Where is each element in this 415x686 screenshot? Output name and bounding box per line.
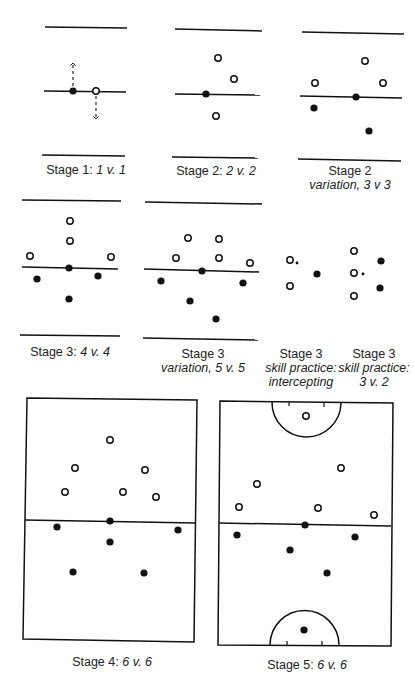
caption-label: Stage 2 bbox=[328, 164, 371, 178]
light-player bbox=[380, 80, 386, 86]
dark-player bbox=[106, 538, 113, 545]
panel-stage3-3v2 bbox=[351, 248, 385, 299]
light-player bbox=[351, 248, 357, 254]
caption-detail: 6 v. 6 bbox=[317, 658, 347, 672]
goalkeeper-dark bbox=[300, 626, 307, 633]
light-player bbox=[173, 255, 179, 261]
dark-player bbox=[351, 533, 358, 540]
caption-stage3-variation: Stage 3 variation, 5 v. 5 bbox=[148, 347, 258, 375]
ball-icon bbox=[296, 262, 299, 265]
light-player bbox=[120, 489, 126, 495]
panel-stage3 bbox=[20, 200, 121, 336]
light-player bbox=[312, 80, 318, 86]
light-player bbox=[108, 254, 114, 260]
caption-label: Stage 3 bbox=[279, 347, 322, 361]
boundary-line bbox=[42, 155, 125, 156]
halfway-line bbox=[300, 96, 402, 98]
light-player bbox=[371, 512, 377, 518]
dark-player bbox=[310, 104, 317, 111]
light-player bbox=[216, 255, 222, 261]
dark-player bbox=[140, 569, 147, 576]
caption-stage2-variation: Stage 2 variation, 3 v 3 bbox=[300, 164, 400, 192]
dark-player bbox=[186, 297, 193, 304]
dark-player bbox=[286, 546, 293, 553]
caption-label: Stage 3 bbox=[352, 347, 395, 361]
dark-player bbox=[53, 523, 60, 530]
dark-player bbox=[69, 568, 76, 575]
caption-label: Stage 4: bbox=[72, 655, 119, 669]
panel-stage2-variation bbox=[298, 32, 404, 161]
panel-stage3-intercepting bbox=[287, 257, 321, 289]
light-player bbox=[254, 481, 260, 487]
light-player bbox=[107, 437, 113, 443]
light-player bbox=[236, 504, 242, 510]
dark-player bbox=[377, 257, 384, 264]
light-player bbox=[338, 465, 344, 471]
light-player bbox=[185, 235, 191, 241]
light-player bbox=[315, 505, 321, 511]
boundary-line bbox=[22, 200, 121, 201]
boundary-line bbox=[145, 202, 262, 204]
dark-player bbox=[212, 315, 219, 322]
dark-player bbox=[301, 521, 308, 528]
boundary-line bbox=[172, 157, 258, 158]
caption-detail: variation, 5 v. 5 bbox=[148, 361, 258, 375]
dark-player bbox=[65, 295, 72, 302]
light-player bbox=[351, 270, 357, 276]
boundary-line bbox=[143, 338, 258, 340]
panel-stage4 bbox=[23, 398, 197, 642]
light-player bbox=[27, 253, 33, 259]
light-player bbox=[216, 236, 222, 242]
light-player bbox=[362, 58, 368, 64]
dark-player bbox=[233, 531, 240, 538]
dark-player bbox=[33, 275, 40, 282]
caption-detail: variation, 3 v 3 bbox=[300, 178, 400, 192]
ball-icon bbox=[362, 273, 365, 276]
caption-detail: 4 v. 4 bbox=[80, 345, 110, 359]
light-player bbox=[247, 260, 253, 266]
boundary-line bbox=[298, 159, 401, 161]
caption-label: Stage 1: bbox=[46, 163, 93, 177]
light-player bbox=[287, 283, 293, 289]
light-player bbox=[351, 293, 357, 299]
caption-label: Stage 3 bbox=[181, 347, 224, 361]
dark-player bbox=[69, 87, 76, 94]
light-player bbox=[153, 494, 159, 500]
light-player bbox=[215, 55, 221, 61]
diagram-canvas bbox=[0, 0, 415, 686]
dark-player bbox=[106, 517, 113, 524]
light-player bbox=[67, 218, 73, 224]
caption-stage4: Stage 4: 6 v. 6 bbox=[62, 655, 162, 669]
dark-player bbox=[94, 272, 101, 279]
panel-stage3-variation bbox=[143, 202, 262, 340]
caption-detail: 1 v. 1 bbox=[96, 163, 126, 177]
halfway-line bbox=[175, 94, 260, 95]
dark-player bbox=[365, 127, 372, 134]
dark-player bbox=[239, 279, 246, 286]
dark-player bbox=[323, 569, 330, 576]
caption-label: Stage 2: bbox=[176, 164, 223, 178]
panel-stage2 bbox=[172, 29, 262, 158]
dark-player bbox=[198, 267, 205, 274]
dark-player bbox=[174, 526, 181, 533]
dark-player bbox=[157, 277, 164, 284]
caption-label: Stage 5: bbox=[267, 658, 314, 672]
caption-stage3-3v2: Stage 3 skill practice: 3 v. 2 bbox=[332, 347, 415, 389]
light-player bbox=[142, 467, 148, 473]
caption-label: Stage 3: bbox=[30, 345, 77, 359]
dark-player bbox=[352, 93, 359, 100]
panel-stage1 bbox=[42, 27, 127, 156]
dark-player bbox=[376, 284, 383, 291]
halfway-line bbox=[44, 91, 126, 92]
boundary-line bbox=[302, 32, 404, 34]
light-player bbox=[303, 413, 309, 419]
caption-stage2: Stage 2: 2 v. 2 bbox=[170, 164, 262, 178]
light-player bbox=[213, 113, 219, 119]
caption-stage3: Stage 3: 4 v. 4 bbox=[20, 345, 120, 359]
light-player bbox=[231, 76, 237, 82]
caption-detail: 2 v. 2 bbox=[226, 164, 256, 178]
caption-detail: skill practice: bbox=[332, 361, 415, 375]
light-player bbox=[72, 465, 78, 471]
caption-stage5: Stage 5: 6 v. 6 bbox=[257, 658, 357, 672]
dark-player bbox=[65, 264, 72, 271]
